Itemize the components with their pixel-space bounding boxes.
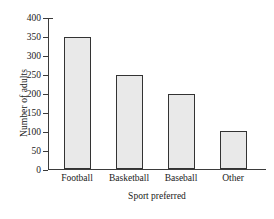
- y-tick-mark: [43, 132, 48, 133]
- y-axis-title: Number of adults: [17, 18, 31, 188]
- y-tick-label: 50: [32, 146, 42, 156]
- x-label-football: Football: [61, 172, 93, 185]
- y-tick-mark: [43, 151, 48, 152]
- y-tick-label: 200: [27, 89, 41, 99]
- y-tick-label: 250: [27, 70, 41, 80]
- y-tick-label: 400: [27, 13, 41, 23]
- y-tick-mark: [43, 94, 48, 95]
- bar-chart: Number of adults 05010015020025030035040…: [0, 0, 274, 219]
- y-tick-mark: [43, 18, 48, 19]
- y-tick-label: 350: [27, 32, 41, 42]
- y-tick-mark: [43, 170, 48, 171]
- y-tick-label: 300: [27, 51, 41, 61]
- y-tick-label: 100: [27, 127, 41, 137]
- bar-series: [49, 18, 266, 169]
- y-tick-mark: [43, 75, 48, 76]
- x-axis-title: Sport preferred: [48, 190, 266, 203]
- bar-other: [220, 131, 247, 169]
- x-axis-category-labels: FootballBasketballBaseballOther: [48, 172, 266, 186]
- y-tick-label: 150: [27, 108, 41, 118]
- plot-area: 050100150200250300350400: [48, 18, 266, 170]
- x-axis-line: [48, 169, 266, 170]
- bar-baseball: [168, 94, 195, 170]
- y-tick-label: 0: [36, 165, 41, 175]
- x-label-basketball: Basketball: [109, 172, 149, 185]
- y-tick-mark: [43, 37, 48, 38]
- bar-basketball: [116, 75, 143, 169]
- x-label-baseball: Baseball: [165, 172, 198, 185]
- y-tick-mark: [43, 56, 48, 57]
- y-tick-mark: [43, 113, 48, 114]
- x-label-other: Other: [222, 172, 244, 185]
- bar-football: [64, 37, 91, 169]
